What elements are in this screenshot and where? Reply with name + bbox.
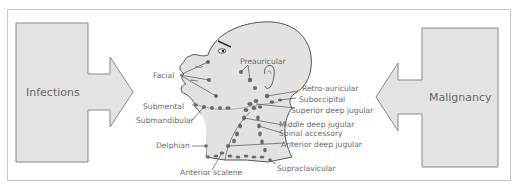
malignancy-label: Malignancy <box>429 91 492 104</box>
label-spinal-accessory: Spinal accessory <box>279 129 343 138</box>
label-supraclavicular: Supraclavicular <box>277 164 337 173</box>
infections-label: Infections <box>26 86 80 99</box>
label-suboccipital: Suboccipital <box>299 95 345 104</box>
label-submandibular: Submandibular <box>136 116 195 125</box>
label-anterior-scalene: Anterior scalene <box>180 168 242 177</box>
label-facial: Facial <box>153 71 174 80</box>
label-delphian: Delphian <box>156 141 190 150</box>
label-retro-auricular: Retro-auricular <box>302 84 360 93</box>
label-superior-deep-jugular: Superior deep jugular <box>291 106 374 115</box>
label-submental: Submental <box>143 102 184 111</box>
label-anterior-deep-jugular: Anterior deep jugular <box>281 140 363 149</box>
label-preauricular: Preauricular <box>240 57 287 66</box>
diagram: Infections Malignancy <box>0 0 516 189</box>
label-middle-deep-jugular: Middle deep jugular <box>279 120 355 129</box>
